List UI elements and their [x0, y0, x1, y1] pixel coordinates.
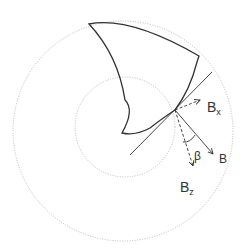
- label-beta: β: [194, 149, 201, 163]
- bz-vector: [175, 110, 193, 166]
- tangent-line: [130, 72, 212, 155]
- label-bx: Bx: [207, 99, 221, 117]
- region-shape: [89, 23, 199, 134]
- label-bz: Bz: [180, 179, 194, 197]
- diagram-canvas: Bx B β Bz: [0, 0, 247, 250]
- label-b: B: [219, 152, 227, 166]
- b-vector: [175, 110, 213, 154]
